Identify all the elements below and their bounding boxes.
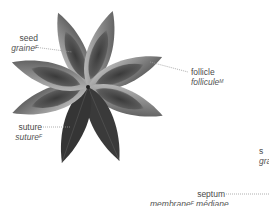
partial-label-right: s gra	[259, 146, 269, 166]
seed-label: seed graineF	[4, 33, 38, 53]
star-anise-illustration	[0, 0, 269, 206]
septum-label: septum membraneF médiane	[150, 189, 225, 206]
follicle-label: follicle folliculeM	[191, 67, 224, 87]
suture-label: suture sutureF	[4, 122, 42, 142]
